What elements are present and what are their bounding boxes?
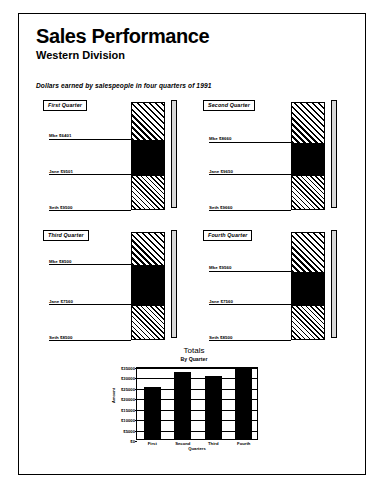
leader-line [49, 340, 131, 341]
bar-segment [132, 175, 164, 210]
bar-front-face [291, 232, 325, 340]
segment-value-label: Jane $9501 [49, 169, 73, 174]
totals-x-axis-title: Quarters [136, 446, 258, 451]
totals-plot-area: $0$5000$10000$15000$20000$25000$30000$35… [136, 367, 258, 440]
stacked-bar [291, 100, 337, 212]
y-tick-mark [135, 389, 137, 390]
segment-amount: $9501 [61, 169, 73, 174]
segment-person-name: Mke [49, 133, 58, 138]
segment-amount: $9560 [219, 265, 231, 270]
segment-amount: $8500 [220, 335, 232, 340]
segment-value-label: Mke $6401 [49, 133, 71, 138]
quarter-panel-grid: First QuarterMke $6401Jane $9501Seth $95… [19, 92, 367, 342]
bar-side-face [331, 230, 337, 338]
leader-line [209, 304, 291, 305]
bar-segment [132, 103, 164, 140]
bar-front-face [131, 102, 165, 210]
y-tick-label: $15000 [121, 407, 135, 412]
y-tick-mark [135, 420, 137, 421]
segment-amount: $9650 [221, 169, 233, 174]
y-tick-label: $30000 [121, 376, 135, 381]
segment-person-name: Mke [49, 259, 58, 264]
segment-person-name: Seth [209, 205, 219, 210]
page-title: Sales Performance [36, 25, 346, 47]
quarter-panel: Third QuarterMke $8500Jane $7560Seth $85… [39, 230, 199, 345]
bar-segment [292, 233, 324, 272]
report-page: Sales Performance Western Division Dolla… [18, 13, 366, 475]
segment-person-name: Jane [209, 169, 219, 174]
totals-chart-subtitle: By Quarter [114, 356, 274, 363]
totals-bar [144, 387, 161, 439]
bar-segment [132, 140, 164, 176]
segment-value-label: Jane $7560 [49, 299, 73, 304]
bar-front-face [291, 102, 325, 210]
quarter-panel: First QuarterMke $6401Jane $9501Seth $95… [39, 100, 199, 215]
bar-segment [132, 305, 164, 340]
y-tick-mark [135, 399, 137, 400]
segment-amount: $8500 [59, 259, 71, 264]
y-tick-label: $35000 [121, 366, 135, 371]
leader-line [209, 210, 291, 211]
segment-value-label: Jane $7560 [209, 299, 233, 304]
segment-person-name: Mke [209, 265, 218, 270]
segment-value-label: Mke $8500 [49, 259, 71, 264]
leader-line [209, 271, 291, 272]
segment-value-label: Seth $9500 [49, 205, 72, 210]
quarter-panel: Second QuarterMke $8660Jane $9650Seth $9… [199, 100, 359, 215]
bar-front-face [131, 232, 165, 340]
leader-line [49, 174, 131, 175]
bar-segment [292, 175, 324, 210]
report-header: Sales Performance Western Division [36, 25, 346, 62]
segment-amount: $8660 [219, 136, 231, 141]
bar-side-face [171, 230, 177, 338]
segment-person-name: Mke [209, 136, 218, 141]
leader-line [49, 304, 131, 305]
segment-value-label: Mke $9560 [209, 265, 231, 270]
y-tick-label: $5000 [123, 428, 135, 433]
leader-line [49, 210, 131, 211]
quarter-tag: Fourth Quarter [203, 230, 252, 241]
bar-segment [132, 265, 164, 305]
y-tick-label: $25000 [121, 386, 135, 391]
segment-person-name: Jane [49, 169, 59, 174]
y-tick-mark [135, 368, 137, 369]
y-tick-mark [135, 410, 137, 411]
totals-y-axis-title: Amount [111, 388, 116, 403]
bar-segment [292, 103, 324, 143]
segment-person-name: Jane [209, 299, 219, 304]
quarter-panel: Fourth QuarterMke $9560Jane $7560Seth $8… [199, 230, 359, 345]
page-subtitle: Western Division [36, 49, 346, 62]
leader-line [209, 340, 291, 341]
y-tick-label: $0 [130, 439, 135, 444]
y-tick-label: $20000 [121, 397, 135, 402]
segment-person-name: Seth [49, 205, 59, 210]
segment-value-label: Seth $9660 [209, 205, 232, 210]
report-caption: Dollars earned by salespeople in four qu… [36, 82, 211, 89]
leader-line [209, 174, 291, 175]
stacked-bar [291, 230, 337, 342]
segment-value-label: Jane $9650 [209, 169, 233, 174]
bar-side-face [171, 100, 177, 208]
segment-value-label: Seth $8500 [49, 335, 72, 340]
leader-line [49, 139, 131, 140]
y-tick-mark [135, 378, 137, 379]
quarter-tag: Third Quarter [43, 230, 89, 241]
totals-chart: Totals By Quarter Amount $0$5000$10000$1… [114, 346, 274, 462]
segment-person-name: Jane [49, 299, 59, 304]
totals-bar [174, 372, 191, 439]
leader-line [209, 142, 291, 143]
bar-segment [132, 233, 164, 265]
segment-person-name: Seth [49, 335, 59, 340]
segment-value-label: Seth $8500 [209, 335, 232, 340]
leader-line [49, 264, 131, 265]
y-tick-label: $10000 [121, 418, 135, 423]
segment-person-name: Seth [209, 335, 219, 340]
bar-segment [292, 272, 324, 305]
quarter-tag: First Quarter [43, 100, 87, 111]
segment-amount: $9500 [60, 205, 72, 210]
stacked-bar [131, 230, 177, 342]
segment-amount: $7560 [61, 299, 73, 304]
segment-amount: $6401 [59, 133, 71, 138]
totals-bar [235, 368, 252, 439]
bar-segment [292, 143, 324, 175]
